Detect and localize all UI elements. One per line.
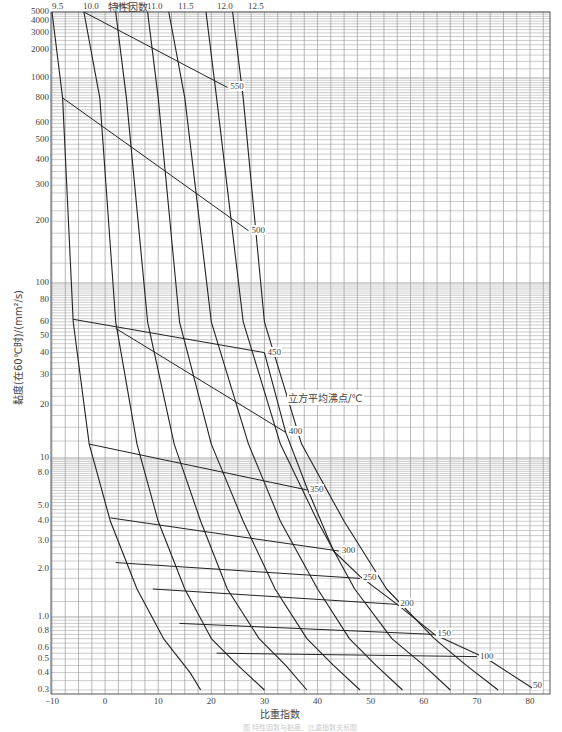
y-tick-label: 5.0 xyxy=(38,500,49,510)
characterization-factor-curve-10.0 xyxy=(84,12,265,690)
y-tick-label: 5000 xyxy=(31,6,49,16)
x-tick-label: 30 xyxy=(260,696,269,706)
boiling-point-line-450 xyxy=(73,319,264,352)
boiling-point-label-550: 550 xyxy=(229,81,245,91)
y-tick-label: 0.3 xyxy=(38,684,49,694)
characterization-factor-curve-11.5 xyxy=(169,12,403,690)
y-tick-label: 2000 xyxy=(31,44,49,54)
y-tick-label: 200 xyxy=(36,215,50,225)
y-tick-label: 4000 xyxy=(31,15,49,25)
x-tick-label: 80 xyxy=(526,696,535,706)
boiling-point-line-100 xyxy=(217,653,477,656)
y-tick-label: 3.0 xyxy=(38,535,49,545)
top-tick-label: 10.5 xyxy=(115,1,131,11)
y-tick-label: 1.0 xyxy=(38,611,49,621)
y-tick-label: 500 xyxy=(36,134,50,144)
boiling-point-label-150: 150 xyxy=(436,628,452,638)
characterization-factor-curve-9.5 xyxy=(52,12,201,690)
characterization-factor-curve-12.0 xyxy=(206,12,450,690)
y-tick-label: 60 xyxy=(40,316,49,326)
x-tick-label: 70 xyxy=(472,696,481,706)
top-tick-label: 10.0 xyxy=(83,1,99,11)
y-tick-label: 800 xyxy=(36,92,50,102)
y-tick-label: 300 xyxy=(36,179,50,189)
y-tick-label: 400 xyxy=(36,154,50,164)
y-tick-label: 20 xyxy=(40,399,49,409)
x-tick-label: 60 xyxy=(419,696,428,706)
y-tick-label: 4.0 xyxy=(38,515,49,525)
y-tick-label: 80 xyxy=(40,294,49,304)
boiling-point-label-300: 300 xyxy=(341,545,357,555)
y-tick-label: 50 xyxy=(40,330,49,340)
y-tick-label: 8.0 xyxy=(38,467,49,477)
top-tick-label: 11.0 xyxy=(147,1,162,11)
plot-frame xyxy=(51,12,550,694)
top-tick-label: 9.5 xyxy=(52,1,63,11)
x-tick-label: 10 xyxy=(154,696,163,706)
boiling-point-label-500: 500 xyxy=(251,225,267,235)
y-tick-label: 100 xyxy=(36,277,50,287)
y-tick-label: 0.6 xyxy=(38,642,49,652)
y-axis-label: 黏度(在60℃时)/(mm²/s) xyxy=(10,273,25,423)
x-tick-label: −10 xyxy=(45,696,59,706)
boiling-point-label-400: 400 xyxy=(288,426,304,436)
x-axis-label: 比重指数 xyxy=(260,706,300,721)
x-tick-label: 20 xyxy=(207,696,216,706)
x-tick-label: 0 xyxy=(103,696,108,706)
y-tick-label: 0.5 xyxy=(38,653,49,663)
boiling-point-legend-title: 立方平均沸点/℃ xyxy=(287,390,364,405)
boiling-point-label-450: 450 xyxy=(266,347,282,357)
y-tick-label: 0.8 xyxy=(38,625,49,635)
y-tick-label: 1000 xyxy=(31,72,49,82)
boiling-point-line-150 xyxy=(180,623,435,634)
y-tick-label: 3000 xyxy=(31,27,49,37)
boiling-point-label-250: 250 xyxy=(362,572,378,582)
top-tick-label: 12.5 xyxy=(248,1,264,11)
y-tick-label: 2.0 xyxy=(38,563,49,573)
top-tick-label: 12.0 xyxy=(217,1,233,11)
boiling-point-label-50: 50 xyxy=(532,680,543,690)
top-tick-label: 11.5 xyxy=(178,1,193,11)
y-tick-label: 30 xyxy=(40,369,49,379)
figure-caption: 图 特性因数与黏度、比重指数关系图 xyxy=(150,722,450,732)
boiling-point-label-200: 200 xyxy=(399,598,415,608)
x-tick-label: 40 xyxy=(313,696,322,706)
boiling-point-label-350: 350 xyxy=(309,484,325,494)
boiling-point-line-400 xyxy=(116,328,286,432)
x-tick-label: 50 xyxy=(366,696,375,706)
y-tick-label: 10 xyxy=(40,452,49,462)
y-tick-label: 600 xyxy=(36,117,50,127)
boiling-point-label-100: 100 xyxy=(479,651,495,661)
y-tick-label: 40 xyxy=(40,347,49,357)
y-tick-label: 0.4 xyxy=(38,667,49,677)
